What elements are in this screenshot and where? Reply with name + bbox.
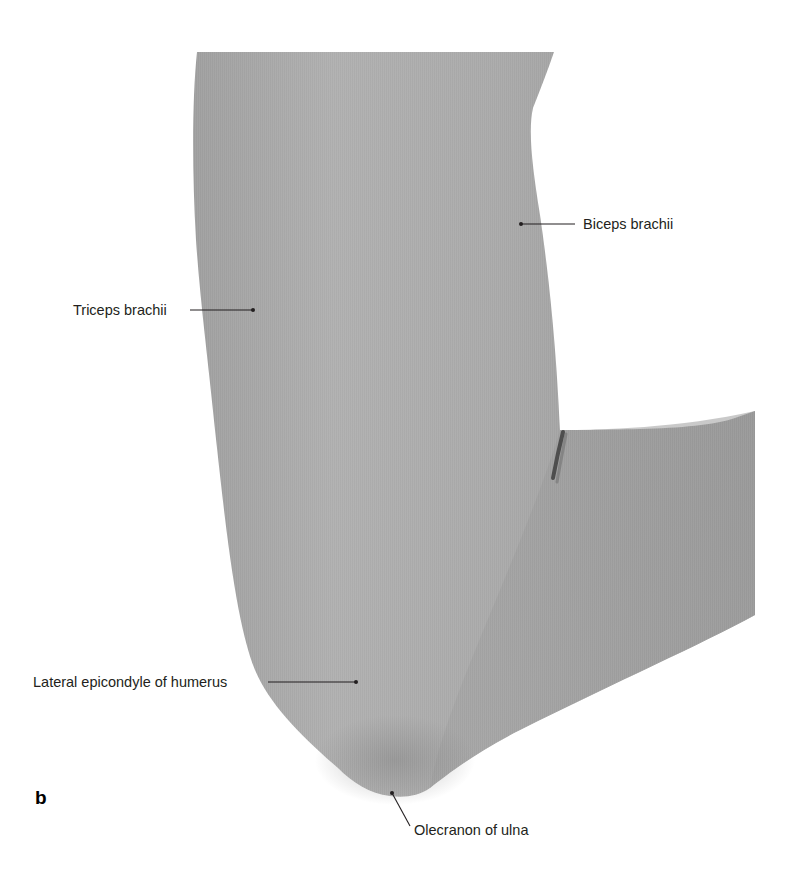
label-olecranon: Olecranon of ulna xyxy=(414,823,528,838)
label-triceps-brachii: Triceps brachii xyxy=(73,303,167,318)
panel-letter: b xyxy=(35,788,47,807)
arm-photo xyxy=(0,0,797,890)
anatomy-figure: Biceps brachii Triceps brachii Lateral e… xyxy=(0,0,797,890)
label-biceps-brachii: Biceps brachii xyxy=(583,217,673,232)
label-lateral-epicondyle: Lateral epicondyle of humerus xyxy=(33,675,227,690)
photo-texture xyxy=(193,52,755,797)
